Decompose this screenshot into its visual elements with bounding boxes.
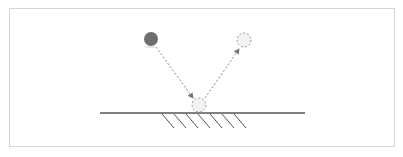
hatch-line xyxy=(186,114,198,128)
ground-hatching xyxy=(162,114,246,128)
hatch-line xyxy=(234,114,246,128)
hatch-line xyxy=(162,114,174,128)
balls xyxy=(144,32,251,112)
ghost-ball-end xyxy=(237,33,251,47)
trajectory-paths xyxy=(156,47,239,98)
hatch-line xyxy=(198,114,210,128)
reflection-diagram xyxy=(0,0,403,157)
hatch-line xyxy=(174,114,186,128)
ball-start xyxy=(144,32,158,46)
hatch-line xyxy=(222,114,234,128)
ghost-ball-impact xyxy=(192,98,206,112)
ball-shadow xyxy=(145,46,157,48)
incoming-path-arrow xyxy=(156,47,193,98)
outgoing-path-arrow xyxy=(205,49,239,98)
hatch-line xyxy=(210,114,222,128)
